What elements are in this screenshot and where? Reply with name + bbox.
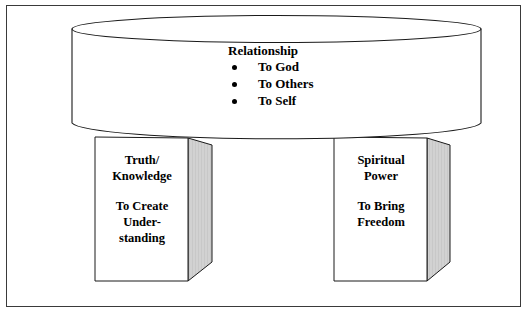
- tabletop-bullet-label: To Others: [258, 75, 314, 92]
- left-leg-purpose-line: To Create: [96, 198, 188, 214]
- bullet-dot-icon: [232, 65, 237, 70]
- left-leg-purpose-line: Under-: [96, 214, 188, 230]
- left-leg-title-line: Knowledge: [96, 168, 188, 184]
- spacer: [96, 184, 188, 198]
- left-leg-text-block: Truth/ Knowledge To Create Under- standi…: [96, 152, 188, 246]
- tabletop-bullet-label: To Self: [258, 92, 296, 109]
- left-leg-side-panel: [188, 138, 212, 281]
- tabletop-bullet-item: To Others: [222, 75, 392, 92]
- left-leg-purpose-line: standing: [96, 230, 188, 246]
- tabletop-cylinder-top-ellipse: [72, 16, 481, 43]
- right-leg-purpose-line: Freedom: [335, 214, 427, 230]
- tabletop-bullet-label: To God: [258, 58, 299, 75]
- right-leg-text-block: Spiritual Power To Bring Freedom: [335, 152, 427, 230]
- diagram-canvas: Relationship To God To Others To Self Tr…: [0, 0, 528, 314]
- bullet-dot-icon: [232, 99, 237, 104]
- right-leg-side-panel: [427, 138, 450, 281]
- tabletop-bullet-item: To God: [222, 58, 392, 75]
- right-leg-title-line: Spiritual: [335, 152, 427, 168]
- tabletop-text-block: Relationship To God To Others To Self: [222, 44, 392, 109]
- right-leg-title-line: Power: [335, 168, 427, 184]
- tabletop-heading: Relationship: [222, 44, 392, 58]
- spacer: [335, 184, 427, 198]
- left-leg-title-line: Truth/: [96, 152, 188, 168]
- tabletop-bullet-item: To Self: [222, 92, 392, 109]
- right-leg-purpose-line: To Bring: [335, 198, 427, 214]
- bullet-dot-icon: [232, 82, 237, 87]
